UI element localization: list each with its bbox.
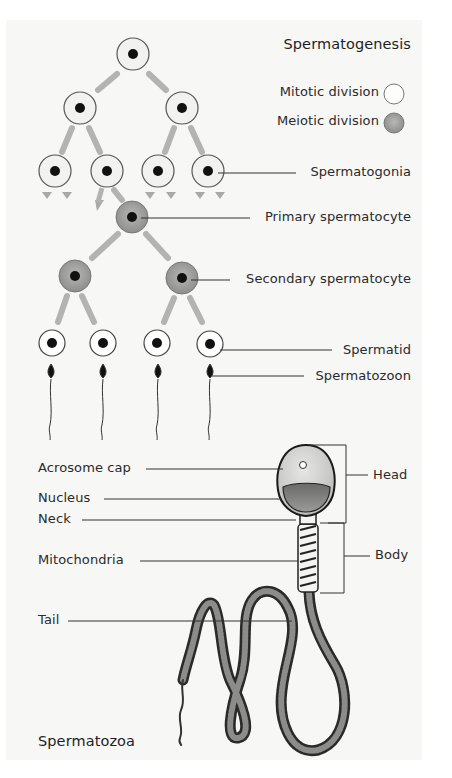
spermatozoon xyxy=(100,364,106,440)
spermatogonium-cell xyxy=(91,155,123,187)
meiotic-swatch xyxy=(384,113,404,133)
label-spermatozoon: Spermatozoon xyxy=(316,368,411,383)
spermatid-cell xyxy=(90,330,116,356)
spermatogonium-cell xyxy=(192,155,224,187)
label-primary-spermatocyte: Primary spermatocyte xyxy=(265,209,411,224)
secondary-spermatocyte-cell xyxy=(59,260,91,292)
spermatogonium-cell xyxy=(142,155,174,187)
label-mitochondria: Mitochondria xyxy=(38,552,124,567)
mitotic-cells xyxy=(39,38,224,187)
spermatozoon xyxy=(155,364,161,440)
large-spermatozoon xyxy=(179,445,344,751)
label-secondary-spermatocyte: Secondary spermatocyte xyxy=(246,271,411,286)
spermatozoon xyxy=(207,364,213,440)
label-tail: Tail xyxy=(38,612,59,627)
secondary-spermatocyte-cell xyxy=(166,262,198,294)
spermatozoon xyxy=(48,364,54,440)
label-spermatogonia: Spermatogonia xyxy=(310,164,411,179)
label-spermatid: Spermatid xyxy=(343,342,411,357)
spermatogonium-cell xyxy=(117,38,149,70)
spermatogonium-cell xyxy=(166,92,198,124)
spermatid-cell xyxy=(39,330,65,356)
small-spermatozoa xyxy=(48,364,213,440)
legend-mitotic-label: Mitotic division xyxy=(280,84,379,99)
label-head: Head xyxy=(373,467,407,482)
spermatid-cell xyxy=(144,330,170,356)
primary-spermatocyte-cell xyxy=(116,201,148,233)
tail xyxy=(179,591,344,751)
label-acrosome-cap: Acrosome cap xyxy=(38,460,131,475)
spermatogonium-cell xyxy=(64,92,96,124)
spermatozoa-title: Spermatozoa xyxy=(38,733,135,749)
mitotic-swatch xyxy=(384,84,404,104)
spermatogenesis-title: Spermatogenesis xyxy=(284,36,411,52)
label-body: Body xyxy=(375,547,408,562)
legend-meiotic-label: Meiotic division xyxy=(277,113,379,128)
spermatogenesis-diagram xyxy=(0,0,452,778)
spermatogonium-cell xyxy=(39,155,71,187)
label-neck: Neck xyxy=(38,511,71,526)
label-nucleus: Nucleus xyxy=(38,490,90,505)
spermatid-cell xyxy=(197,331,223,357)
meiotic-cells xyxy=(59,201,198,294)
spermatid-cells xyxy=(39,330,223,357)
